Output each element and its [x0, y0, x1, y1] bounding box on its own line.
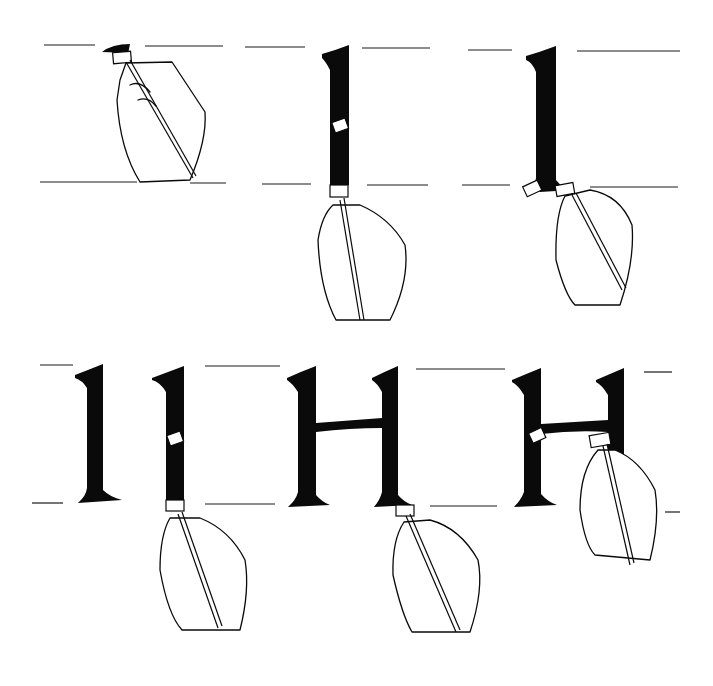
panel-5-second-stem	[152, 366, 247, 630]
calligraphy-illustration	[0, 0, 713, 686]
panel-1-pen-start	[102, 44, 205, 182]
panel-3-foot-serif	[523, 46, 633, 305]
panel-4-first-stem	[75, 364, 122, 503]
panel-2-stem-down	[318, 45, 406, 320]
panel-7-crossbar-pen	[512, 368, 657, 565]
panel-6-letter-h	[287, 366, 480, 632]
